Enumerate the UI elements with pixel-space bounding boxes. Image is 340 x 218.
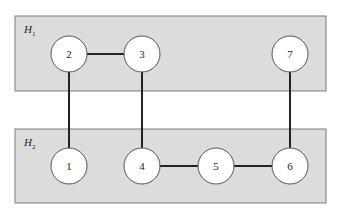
node-label: 5 bbox=[213, 160, 219, 172]
node-label: 3 bbox=[139, 48, 145, 60]
node-label: 2 bbox=[66, 48, 72, 60]
node-1: 1 bbox=[51, 148, 87, 184]
node-5: 5 bbox=[198, 148, 234, 184]
node-4: 4 bbox=[124, 148, 160, 184]
node-3: 3 bbox=[124, 36, 160, 72]
node-2: 2 bbox=[51, 36, 87, 72]
node-label: 7 bbox=[287, 48, 293, 60]
node-6: 6 bbox=[272, 148, 308, 184]
node-label: 1 bbox=[66, 160, 72, 172]
node-7: 7 bbox=[272, 36, 308, 72]
graph-diagram: H1H2 2371456 bbox=[0, 0, 340, 218]
node-label: 4 bbox=[139, 160, 145, 172]
node-label: 6 bbox=[287, 160, 293, 172]
